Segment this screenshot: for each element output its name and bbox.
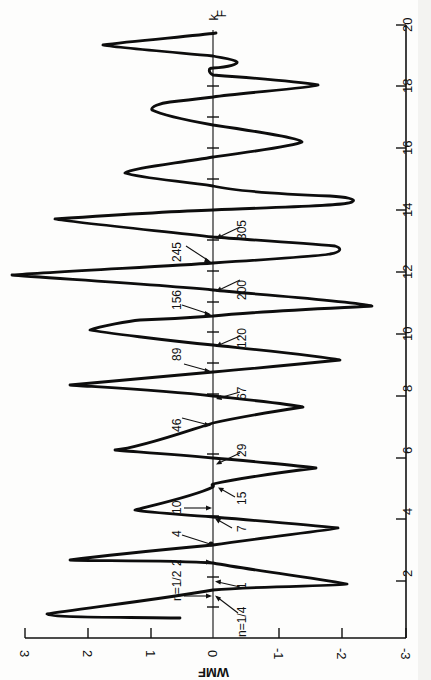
arrow-head-icon (209, 542, 214, 547)
annotation-label: 4 (170, 530, 184, 537)
annotation-arrow (221, 489, 235, 497)
wmf-tick-label: 0 (205, 650, 220, 657)
wmf-axis: 3 2 1 0 -1 -2 -3 WMF (17, 628, 413, 680)
annotations: n=1/2 2 4 10 46 89 156 245 n=1/4 (170, 220, 249, 637)
annotation-label: n=1/2 (170, 570, 184, 601)
arrow-head-icon (216, 460, 222, 465)
annotation-label: 7 (235, 525, 249, 532)
kf-tick-label: 4 (400, 508, 415, 515)
arrow-head-icon (206, 594, 212, 599)
annotation-label: 46 (170, 418, 184, 432)
annotation-label: 156 (170, 290, 184, 310)
wmf-tick-label: -3 (398, 648, 413, 660)
annotation-label: 305 (235, 220, 249, 240)
page-edge-shade (418, 0, 431, 680)
annotation-label: n=1/4 (235, 606, 249, 637)
kf-tick-label: 2 (400, 570, 415, 577)
wmf-tick-label: 3 (17, 650, 32, 657)
wmf-tick-label: -1 (271, 648, 286, 660)
kf-tick-label: 8 (400, 385, 415, 392)
kf-tick-label: 6 (400, 447, 415, 454)
annotation-label: 89 (170, 347, 184, 361)
annotation-arrow (182, 535, 210, 544)
annotation-label: 1 (235, 582, 249, 589)
arrow-head-icon (215, 580, 221, 585)
kf-axis: 2 4 6 8 10 12 14 16 18 20 (396, 18, 415, 638)
kf-label-subscript: F (215, 10, 229, 17)
arrow-head-icon (206, 506, 212, 511)
annotation-label: 10 (170, 500, 184, 514)
wmf-tick-label: 1 (143, 650, 158, 657)
kf-tick-label: 20 (400, 18, 415, 32)
wmf-chart: 3 2 1 0 -1 -2 -3 WMF 2 4 6 8 10 12 14 16… (0, 0, 431, 680)
annotation-arrow (217, 597, 238, 613)
annotation-label: 245 (170, 242, 184, 262)
arrow-head-icon (215, 596, 221, 602)
kf-tick-label: 10 (400, 327, 415, 341)
kf-tick-label: 18 (400, 79, 415, 93)
kf-tick-label: 12 (400, 265, 415, 279)
annotation-arrow (218, 520, 232, 528)
annotation-label: 15 (235, 491, 249, 505)
kf-tick-label: 14 (400, 203, 415, 217)
wmf-tick-label: -2 (334, 648, 349, 660)
wmf-axis-title: WMF (198, 665, 229, 680)
annotation-label: 200 (235, 280, 249, 300)
annotation-label: 2 (170, 559, 184, 566)
wmf-tick-label: 2 (80, 650, 95, 657)
kf-tick-label: 16 (400, 141, 415, 155)
wmf-curve (12, 33, 372, 618)
